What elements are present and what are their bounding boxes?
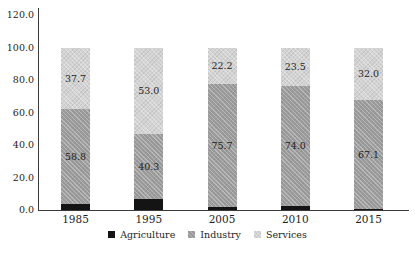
bar-segment-agriculture-2010 (281, 206, 310, 210)
legend-swatch-agriculture (108, 231, 115, 238)
legend-label: Agriculture (120, 229, 175, 240)
y-tick-label: 40.0 (0, 139, 34, 151)
legend-swatch-industry (188, 231, 195, 238)
bar-data-label: 22.2 (202, 60, 242, 71)
bar-segment-agriculture-1985 (61, 204, 90, 210)
legend-entry-services: Services (254, 229, 307, 240)
y-tick-label: 0.0 (0, 204, 34, 216)
bar-segment-agriculture-1995 (134, 199, 163, 210)
bar-data-label: 67.1 (349, 149, 389, 160)
y-axis-line (38, 8, 39, 211)
bar-segment-agriculture-2005 (208, 207, 237, 210)
legend-entry-agriculture: Agriculture (108, 229, 175, 240)
y-tick-label: 20.0 (0, 172, 34, 184)
y-tick-label: 120.0 (0, 9, 34, 21)
bar-data-label: 40.3 (129, 161, 169, 172)
bar-segment-agriculture-2015 (354, 209, 383, 210)
stacked-bar-chart: 0.020.040.060.080.0100.0120.0 58.837.740… (0, 0, 415, 257)
bar-data-label: 58.8 (56, 151, 96, 162)
x-axis-label-1995: 1995 (119, 213, 179, 226)
legend-label: Industry (200, 229, 241, 240)
y-tick-label: 60.0 (0, 107, 34, 119)
legend-label: Services (266, 229, 307, 240)
bar-data-label: 75.7 (202, 140, 242, 151)
legend-entry-industry: Industry (188, 229, 241, 240)
bar-data-label: 23.5 (275, 61, 315, 72)
bar-data-label: 53.0 (129, 85, 169, 96)
x-axis-label-2005: 2005 (192, 213, 252, 226)
x-axis-label-1985: 1985 (46, 213, 106, 226)
legend-swatch-services (254, 231, 261, 238)
x-axis-line (38, 210, 409, 211)
bar-data-label: 74.0 (275, 140, 315, 151)
bar-data-label: 37.7 (56, 73, 96, 84)
y-tick-label: 80.0 (0, 74, 34, 86)
bar-data-label: 32.0 (349, 68, 389, 79)
y-tick-label: 100.0 (0, 42, 34, 54)
x-axis-label-2015: 2015 (339, 213, 399, 226)
x-axis-label-2010: 2010 (265, 213, 325, 226)
legend: AgricultureIndustryServices (0, 229, 415, 240)
